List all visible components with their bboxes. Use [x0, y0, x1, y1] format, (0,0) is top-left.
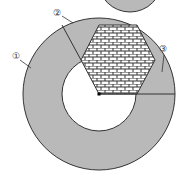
top-partial-circle	[98, 0, 162, 12]
label-2: ②	[53, 8, 61, 18]
label-1: ①	[12, 51, 20, 61]
label-3: ③	[159, 44, 167, 54]
leader-line-2	[62, 16, 73, 23]
geometry-diagram: ① ② ③	[0, 0, 180, 176]
center-dot	[98, 93, 101, 96]
